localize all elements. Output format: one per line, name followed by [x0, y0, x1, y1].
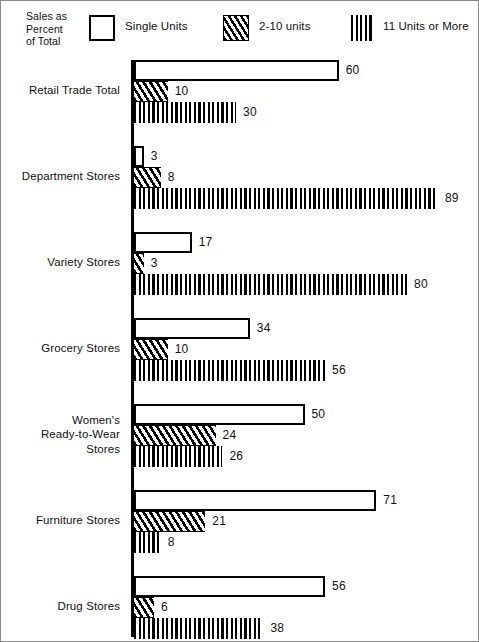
bar-value-label: 3: [151, 253, 158, 274]
bar-value-label: 10: [175, 339, 189, 360]
bar-0: [134, 576, 326, 597]
bar-value-label: 56: [332, 360, 346, 381]
bar-0: [134, 60, 339, 81]
bar-value-label: 38: [270, 618, 284, 639]
chart-frame: Sales as Percent of Total Single Units 2…: [0, 0, 479, 642]
bar-value-label: 30: [243, 102, 257, 123]
legend-swatch-solid-outline-icon: [89, 15, 115, 41]
legend-label: 2-10 units: [259, 20, 311, 32]
bar-1: [134, 597, 155, 618]
category-label: Women's Ready-to-Wear Stores: [41, 413, 120, 457]
bar-value-label: 17: [199, 232, 213, 253]
legend-swatch-diagonal-hatch-icon: [223, 15, 249, 41]
bar-value-label: 3: [151, 146, 158, 167]
bar-2: [134, 274, 408, 295]
bar-value-label: 26: [229, 446, 243, 467]
bar-2: [134, 360, 326, 381]
bar-value-label: 60: [346, 60, 360, 81]
bar-2: [134, 618, 264, 639]
bar-value-label: 8: [168, 532, 175, 553]
category-label: Drug Stores: [58, 599, 120, 614]
bar-0: [134, 404, 305, 425]
bar-2: [134, 532, 161, 553]
bar-value-label: 21: [212, 511, 226, 532]
bar-1: [134, 253, 144, 274]
category-label: Department Stores: [22, 169, 120, 184]
legend-label: 11 Units or More: [383, 20, 469, 32]
category-label: Grocery Stores: [41, 341, 120, 356]
bar-2: [134, 102, 237, 123]
bar-1: [134, 339, 168, 360]
bar-0: [134, 318, 250, 339]
chart-plot-area: Retail Trade Total601030Department Store…: [1, 55, 479, 642]
legend-title: Sales as Percent of Total: [26, 10, 67, 48]
bar-1: [134, 511, 206, 532]
category-label: Retail Trade Total: [29, 83, 120, 98]
category-label: Furniture Stores: [36, 513, 120, 528]
bar-0: [134, 146, 144, 167]
category-label: Variety Stores: [47, 255, 120, 270]
bar-2: [134, 188, 438, 209]
bar-value-label: 80: [414, 274, 428, 295]
bar-2: [134, 446, 223, 467]
bar-value-label: 10: [175, 81, 189, 102]
chart-legend: Sales as Percent of Total Single Units 2…: [1, 1, 479, 55]
bar-value-label: 6: [161, 597, 168, 618]
legend-label: Single Units: [125, 20, 188, 32]
bar-value-label: 50: [312, 404, 326, 425]
bar-value-label: 24: [223, 425, 237, 446]
bar-value-label: 34: [257, 318, 271, 339]
bar-1: [134, 81, 168, 102]
bar-value-label: 56: [332, 576, 346, 597]
bar-value-label: 8: [168, 167, 175, 188]
bar-1: [134, 167, 161, 188]
legend-swatch-vertical-stripes-icon: [351, 15, 373, 41]
bar-0: [134, 232, 192, 253]
bar-value-label: 71: [383, 490, 397, 511]
bar-value-label: 89: [445, 188, 459, 209]
bar-1: [134, 425, 216, 446]
bar-0: [134, 490, 377, 511]
